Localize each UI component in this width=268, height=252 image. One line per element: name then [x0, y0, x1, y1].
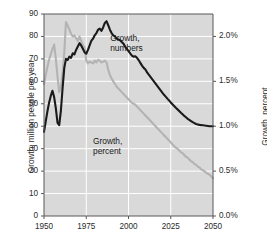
growth-numbers-annotation-line1: Growth,	[110, 33, 143, 44]
growth-numbers-annotation: Growth, numbers	[110, 33, 143, 54]
bottom-axis-tick-2050: 2050	[193, 222, 233, 231]
left-axis-tick-10: 10	[16, 189, 38, 198]
bottom-axis-tick-2000: 2000	[109, 222, 149, 231]
right-axis-tick-0-0pct: 0.0%	[219, 211, 253, 220]
left-axis-tick-80: 80	[16, 31, 38, 40]
right-axis-tick-1-5pct: 1.5%	[219, 76, 253, 85]
right-axis-title: Growth, percent	[261, 32, 268, 202]
left-axis-tick-0: 0	[16, 211, 38, 220]
bottom-axis-tick-1975: 1975	[66, 222, 106, 231]
left-axis-tick-90: 90	[16, 9, 38, 18]
bottom-axis-tick-2025: 2025	[151, 222, 191, 231]
growth-numbers-annotation-line2: numbers	[110, 43, 143, 54]
growth-percent-annotation: Growth, percent	[93, 136, 122, 157]
right-axis-tick-1-0pct: 1.0%	[219, 121, 253, 130]
right-axis-tick-0-5pct: 0.5%	[219, 166, 253, 175]
right-axis-tick-2-0pct: 2.0%	[219, 31, 253, 40]
left-axis-tick-60: 60	[16, 76, 38, 85]
left-axis-tick-50: 50	[16, 99, 38, 108]
left-axis-tick-40: 40	[16, 121, 38, 130]
growth-percent-annotation-line1: Growth,	[93, 136, 122, 147]
left-axis-tick-70: 70	[16, 54, 38, 63]
growth-percent-annotation-line2: percent	[93, 146, 122, 157]
left-axis-tick-30: 30	[16, 144, 38, 153]
left-axis-tick-20: 20	[16, 166, 38, 175]
chart-container: Growth, million people per year Growth, …	[0, 0, 267, 252]
bottom-axis-tick-1950: 1950	[24, 222, 64, 231]
